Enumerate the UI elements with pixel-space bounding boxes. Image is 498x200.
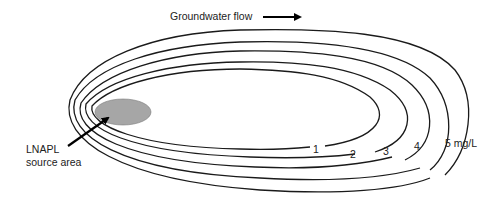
contour-label-5: 5 mg/L — [445, 137, 477, 149]
groundwater-flow-label: Groundwater flow — [170, 10, 253, 22]
source-pointer-arrow-icon — [68, 118, 108, 146]
contour-label-3: 3 — [383, 145, 389, 157]
contour-label-2: 2 — [350, 148, 356, 160]
plume-diagram: Groundwater flow 1 2 3 4 5 mg/L LNAPL so… — [0, 0, 498, 200]
contour-label-1: 1 — [313, 143, 319, 155]
source-label-line1: LNAPL — [26, 143, 59, 155]
source-label-line2: source area — [26, 156, 82, 168]
contour-label-4: 4 — [414, 140, 420, 152]
